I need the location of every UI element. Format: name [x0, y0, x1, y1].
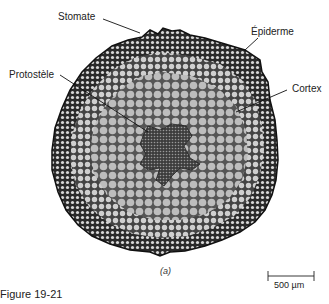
scale-bar-label: 500 µm: [274, 280, 304, 290]
label-cortex: Cortex: [292, 83, 321, 95]
label-protostele: Protostèle: [9, 69, 54, 81]
figure-number: Figure 19-21: [0, 288, 62, 300]
label-stomate: Stomate: [58, 11, 95, 23]
panel-label: (a): [160, 266, 171, 276]
stem-cross-section-diagram: [0, 0, 329, 304]
label-epidermis: Épiderme: [251, 26, 294, 38]
